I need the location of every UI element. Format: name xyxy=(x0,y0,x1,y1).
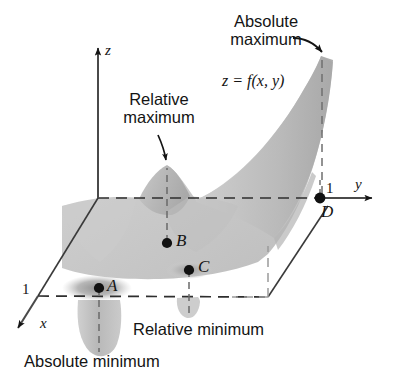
x-axis xyxy=(18,296,38,328)
point-label-C: C xyxy=(198,257,209,276)
z-axis-label: z xyxy=(105,42,111,59)
equation-label: z = f(x, y) xyxy=(222,72,284,90)
absolute-maximum-line1: Absolute xyxy=(234,12,298,30)
point-dot-B[interactable] xyxy=(162,238,172,248)
relative-maximum-line1: Relative xyxy=(129,90,189,108)
point-dot-C[interactable] xyxy=(184,265,194,275)
y-axis-tick-label: 1 xyxy=(326,180,334,197)
relative-maximum-arrow xyxy=(158,135,166,160)
absolute-minimum-annotation: Absolute minimum xyxy=(24,352,160,370)
y-axis-label: y xyxy=(355,176,362,193)
relative-maximum-line2: maximum xyxy=(123,108,195,126)
relative-minimum-annotation: Relative minimum xyxy=(133,320,264,338)
point-label-D: D xyxy=(321,202,333,221)
x-axis-tick-label: 1 xyxy=(22,281,30,298)
point-label-B: B xyxy=(176,231,186,250)
relative-maximum-annotation: Relative maximum xyxy=(103,90,215,127)
x-axis-label: x xyxy=(40,315,47,332)
point-dot-A[interactable] xyxy=(94,283,104,293)
absolute-maximum-annotation: Absolute maximum xyxy=(207,12,325,49)
absolute-maximum-line2: maximum xyxy=(230,30,302,48)
point-label-A: A xyxy=(107,276,117,295)
